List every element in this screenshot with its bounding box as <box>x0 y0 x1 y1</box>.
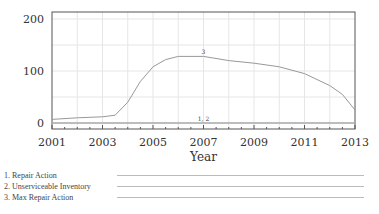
y-tick-label: 200 <box>23 13 44 26</box>
legend-label: 2. Unserviceable Inventory <box>4 181 91 192</box>
x-tick-label: 2007 <box>190 136 218 149</box>
legend-line-sample <box>117 197 364 198</box>
legend-label: 3. Max Repair Action <box>4 192 73 203</box>
series-number-label: 3 <box>202 48 206 55</box>
series-number-label: 1, 2 <box>198 115 210 122</box>
x-tick-label: 2013 <box>341 136 369 149</box>
x-tick-label: 2009 <box>240 136 268 149</box>
legend-item-unserviceable-inventory: 2. Unserviceable Inventory <box>4 181 374 192</box>
y-axis-ticks: 0100200 <box>23 13 44 130</box>
legend-label: 1. Repair Action <box>4 170 57 181</box>
legend-line-sample <box>117 186 364 187</box>
x-tick-label: 2001 <box>38 136 66 149</box>
grid-lines <box>52 12 355 129</box>
y-tick-label: 100 <box>23 65 44 78</box>
x-tick-label: 2005 <box>139 136 167 149</box>
y-tick-label: 0 <box>37 117 44 130</box>
line-chart: 0100200 2001200320052007200920112013 31,… <box>0 0 379 170</box>
legend-item-repair-action: 1. Repair Action <box>4 170 374 181</box>
legend-line-sample <box>117 175 364 176</box>
x-tick-label: 2003 <box>89 136 117 149</box>
legend: 1. Repair Action 2. Unserviceable Invent… <box>4 170 374 203</box>
legend-item-max-repair-action: 3. Max Repair Action <box>4 192 374 203</box>
x-axis-title: Year <box>189 150 217 164</box>
x-tick-label: 2011 <box>291 136 319 149</box>
